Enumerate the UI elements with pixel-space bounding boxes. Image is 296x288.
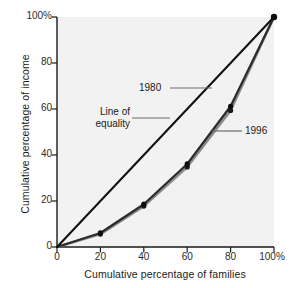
y-tick-label-40: 40 [41, 148, 52, 159]
y-tick-label-20: 20 [41, 194, 52, 205]
annotation-line-of-equality-line1: Line of [74, 106, 130, 118]
x-tick-label-20: 20 [95, 251, 106, 262]
x-tick-label-100: 100% [259, 251, 285, 262]
x-tick-label-60: 60 [182, 251, 193, 262]
x-tick-label-0: 0 [54, 251, 60, 262]
x-tick-label-40: 40 [138, 251, 149, 262]
chart-canvas [0, 0, 296, 288]
y-tick-label-100: 100% [26, 10, 52, 21]
y-axis-title: Cumulative percentage of income [19, 14, 31, 254]
annotation-line-of-equality: Line of equality [74, 106, 130, 129]
lorenz-curve-figure: Cumulative percentage of income Cumulati… [0, 0, 296, 288]
annotation-line-of-equality-line2: equality [74, 118, 130, 130]
annotation-1980: 1980 [139, 82, 161, 94]
y-tick-label-80: 80 [41, 56, 52, 67]
y-tick-label-0: 0 [46, 240, 52, 251]
y-axis-ticks [52, 17, 58, 247]
x-axis-title: Cumulative percentage of families [40, 268, 290, 280]
annotation-1996: 1996 [245, 125, 267, 137]
y-tick-label-60: 60 [41, 102, 52, 113]
x-axis-ticks [57, 247, 274, 253]
x-tick-label-80: 80 [225, 251, 236, 262]
